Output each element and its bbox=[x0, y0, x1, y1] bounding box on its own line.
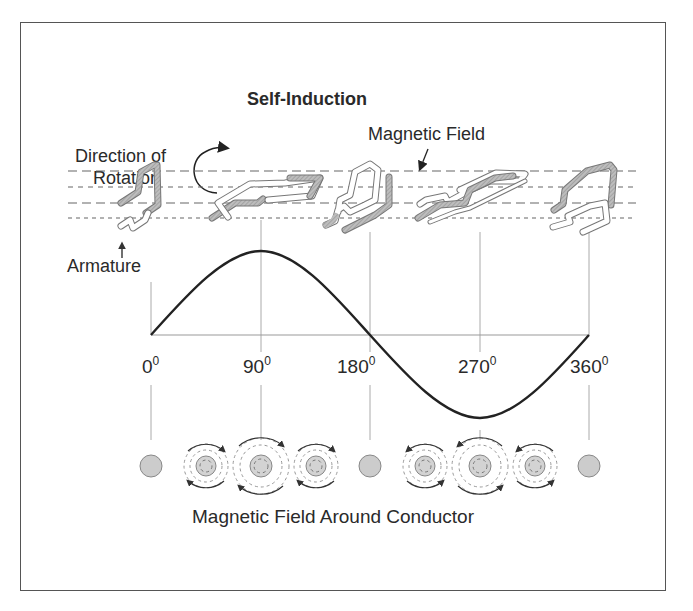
armature-loop-135 bbox=[418, 173, 525, 222]
conductor-225 bbox=[403, 444, 447, 488]
conductor-90 bbox=[233, 438, 289, 495]
conductor-0 bbox=[140, 455, 162, 477]
magnetic-field-arrow-icon bbox=[420, 149, 428, 169]
armature-loop-45 bbox=[212, 178, 320, 218]
diagram-graphics bbox=[0, 0, 693, 611]
conductor-315 bbox=[513, 444, 557, 488]
armature-loop-180 bbox=[553, 165, 614, 232]
rotation-arrow-icon bbox=[194, 148, 227, 193]
conductor-row bbox=[140, 438, 600, 495]
conductor-360 bbox=[578, 455, 600, 477]
conductor-135 bbox=[294, 444, 338, 488]
conductor-180 bbox=[359, 455, 381, 477]
armature-loop-90 bbox=[326, 164, 389, 230]
conductor-45 bbox=[184, 444, 228, 488]
conductor-270 bbox=[452, 438, 508, 495]
armature-loop-0 bbox=[121, 165, 158, 228]
angle-guides bbox=[151, 220, 589, 440]
